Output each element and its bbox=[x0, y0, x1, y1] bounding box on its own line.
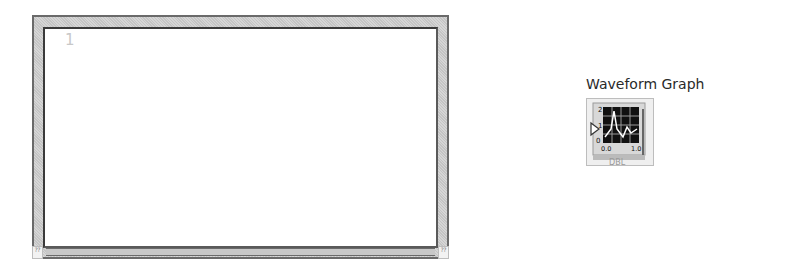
plot-index-label: 1 bbox=[65, 31, 75, 49]
waveform-graph-indicator[interactable]: 1 ⁇ ⁇ bbox=[32, 15, 449, 259]
waveform-graph-icon: 2 1 0 0.0 1.0 DBL bbox=[587, 99, 655, 167]
icon-axis-label: 1 bbox=[598, 122, 602, 130]
terminal-label[interactable]: Waveform Graph bbox=[586, 76, 704, 92]
resize-handle-left[interactable]: ⁇ bbox=[32, 246, 43, 259]
icon-axis-label: 0 bbox=[596, 137, 600, 145]
resize-handle-right[interactable]: ⁇ bbox=[438, 246, 449, 259]
horizontal-scrollbar[interactable] bbox=[46, 248, 435, 256]
icon-axis-label: 1.0 bbox=[631, 145, 641, 153]
plot-area[interactable]: 1 bbox=[43, 27, 438, 248]
icon-axis-label: 2 bbox=[598, 106, 602, 114]
data-type-label: DBL bbox=[609, 158, 626, 167]
icon-axis-label: 0.0 bbox=[601, 145, 611, 153]
waveform-graph-terminal[interactable]: 2 1 0 0.0 1.0 DBL bbox=[586, 98, 654, 166]
